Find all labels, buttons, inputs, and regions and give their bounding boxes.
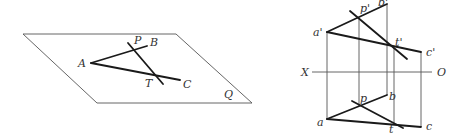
label-c-prime: c' xyxy=(426,46,435,59)
label-P: P xyxy=(133,34,142,47)
diagram-canvas: A P B T C Q X O a' p' b' t' xyxy=(0,0,460,135)
label-t-prime: t' xyxy=(395,36,402,49)
label-B: B xyxy=(149,36,158,49)
label-a-prime: a' xyxy=(313,26,323,39)
label-O: O xyxy=(437,66,446,79)
diagram-svg: A P B T C Q X O a' p' b' t' xyxy=(0,0,460,135)
label-T: T xyxy=(145,77,154,90)
label-c: c xyxy=(426,120,432,133)
line-ac xyxy=(91,63,180,80)
label-C: C xyxy=(183,78,192,91)
label-t: t xyxy=(389,123,394,135)
projection-view: X O a' p' b' t' c' a p b t c xyxy=(300,0,446,135)
label-X: X xyxy=(300,66,310,79)
top-ac xyxy=(327,119,421,127)
spatial-view: A P B T C Q xyxy=(23,34,252,103)
label-b: b xyxy=(389,90,396,103)
label-a: a xyxy=(317,116,324,129)
front-ac xyxy=(327,32,421,52)
label-A: A xyxy=(77,57,86,70)
label-b-prime: b' xyxy=(378,0,388,9)
label-p-prime: p' xyxy=(360,2,370,15)
label-p: p xyxy=(360,92,367,105)
label-Q: Q xyxy=(224,88,233,101)
